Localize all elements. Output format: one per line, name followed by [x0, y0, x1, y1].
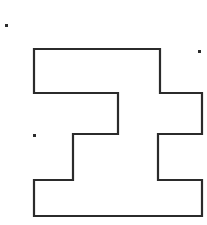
speck-mid-left: [33, 134, 36, 137]
orthogonal-polygon-path: [34, 49, 202, 216]
speck-top-left: [5, 24, 8, 27]
speck-top-right: [198, 50, 201, 53]
drawing-canvas: [0, 0, 207, 225]
polygon-figure: [0, 0, 207, 225]
